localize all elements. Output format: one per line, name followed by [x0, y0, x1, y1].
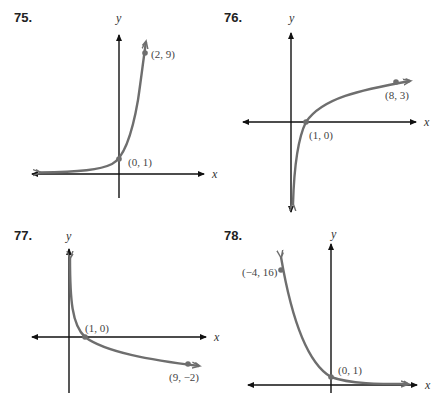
graph-76: 76. y x (1, 0) (8, 3)	[224, 10, 430, 212]
graph-number: 78.	[224, 228, 242, 243]
point-label: (9, −2)	[169, 371, 199, 384]
point-label: (1, 0)	[85, 322, 109, 335]
point-label: (0, 1)	[128, 156, 152, 169]
y-axis-label: y	[65, 229, 72, 243]
point-0-1	[116, 156, 122, 162]
x-axis-label: x	[213, 330, 220, 344]
x-axis-label: x	[211, 167, 218, 181]
graph-number: 75.	[14, 10, 32, 25]
point-1-0	[303, 119, 309, 125]
y-axis-label: y	[288, 11, 295, 25]
exponential-curve	[40, 42, 146, 173]
x-axis-label: x	[424, 378, 431, 392]
point-label: (8, 3)	[385, 89, 409, 102]
graph-77: 77. y x (1, 0) (9, −2)	[14, 228, 220, 393]
graph-number: 77.	[14, 228, 32, 243]
graph-number: 76.	[224, 10, 242, 25]
point-0-1	[328, 374, 334, 380]
point-8-3	[393, 79, 399, 85]
graph-75: 75. y x (0, 1) (2, 9)	[14, 10, 218, 198]
y-axis-label: y	[115, 11, 122, 25]
point-9-neg2	[185, 361, 191, 367]
point-1-0	[82, 334, 88, 340]
graph-78: 78. y x (−4, 16) (0, 1)	[224, 227, 431, 393]
point-label: (1, 0)	[309, 129, 333, 142]
y-axis-label: y	[330, 227, 337, 241]
point-label: (−4, 16)	[242, 266, 278, 279]
point-label: (2, 9)	[151, 48, 175, 61]
point-2-9	[142, 50, 148, 56]
point-neg4-16	[278, 267, 284, 273]
logarithmic-curve	[70, 258, 199, 366]
graphs-figure: 75. y x (0, 1) (2, 9) 76. y x (1, 0) (8,…	[0, 0, 447, 393]
point-label: (0, 1)	[338, 364, 362, 377]
x-axis-label: x	[423, 115, 430, 129]
